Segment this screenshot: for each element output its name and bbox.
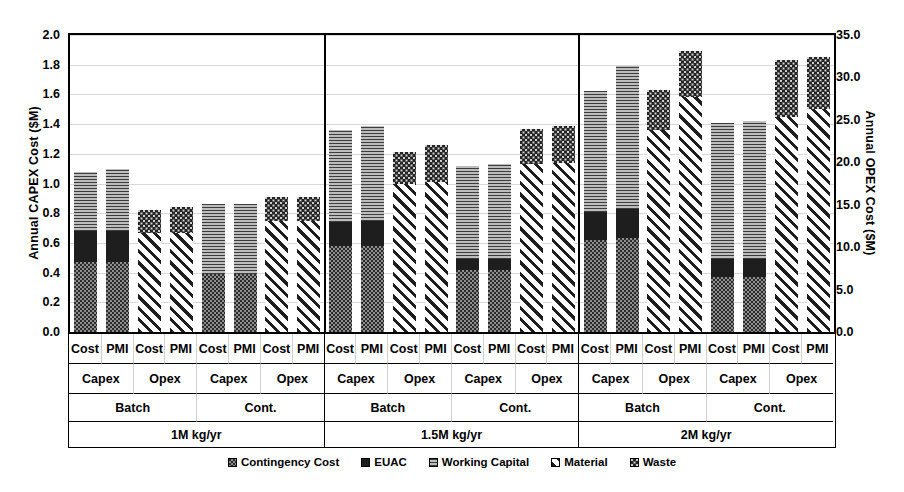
bar-2Mkgyr-Batch-Opex-Cost [647, 90, 670, 332]
bar-segment-contingency-cost [361, 246, 384, 332]
cat-label-measure: Cost [196, 334, 228, 364]
bar-segment-euac [74, 231, 97, 262]
cat-label-throughput: 1M kg/yr [69, 422, 324, 447]
cat-label-measure: Cost [69, 334, 101, 364]
bar-segment-euac [584, 212, 607, 240]
cat-label-measure: PMI [546, 334, 578, 364]
cat-label-panel: Capex [451, 364, 515, 394]
cat-label-mode: Batch [69, 394, 196, 422]
bar-segment-euac [329, 222, 352, 246]
cat-label-measure: Cost [642, 334, 674, 364]
y-axis-right-tick-label: 10.0 [836, 241, 882, 254]
bar-15Mkgyr-Cont-Capex-Cost [456, 166, 479, 332]
bar-segment-material [170, 233, 193, 332]
cat-label-panel: Opex [133, 364, 197, 394]
group-separator [324, 35, 326, 332]
bar-15Mkgyr-Batch-Capex-PMI [361, 126, 384, 332]
cat-label-panel: Opex [515, 364, 579, 394]
bar-segment-euac [616, 209, 639, 239]
bar-segment-material [552, 163, 575, 332]
cat-label-panel: Capex [578, 364, 642, 394]
bar-segment-waste [552, 126, 575, 163]
legend-label: Working Capital [442, 456, 529, 468]
cat-row-throughput: 1M kg/yr1.5M kg/yr2M kg/yr [69, 422, 835, 447]
cat-label-measure: PMI [101, 334, 133, 364]
bar-segment-waste [170, 207, 193, 232]
cat-label-measure: Cost [260, 334, 292, 364]
cat-label-measure: Cost [706, 334, 738, 364]
bar-15Mkgyr-Batch-Capex-Cost [329, 130, 352, 332]
y-axis-left-tick-label: 0.2 [20, 296, 60, 309]
bar-1Mkgyr-Batch-Opex-PMI [170, 207, 193, 332]
bar-segment-working-capital [361, 126, 384, 221]
cat-label-measure: PMI [674, 334, 706, 364]
cat-label-measure: Cost [133, 334, 165, 364]
bar-15Mkgyr-Cont-Opex-PMI [552, 126, 575, 332]
y-axis-right-tick-label: 30.0 [836, 71, 882, 84]
bar-15Mkgyr-Batch-Opex-Cost [393, 152, 416, 332]
category-axis-table: CostPMICostPMICostPMICostPMICostPMICostP… [68, 334, 836, 448]
cat-label-panel: Opex [642, 364, 706, 394]
bar-1Mkgyr-Batch-Capex-Cost [74, 172, 97, 332]
bar-segment-waste [775, 60, 798, 116]
cat-label-panel: Opex [260, 364, 324, 394]
bar-segment-working-capital [584, 91, 607, 211]
legend-item: Waste [630, 456, 676, 468]
cat-row-measure: CostPMICostPMICostPMICostPMICostPMICostP… [69, 334, 835, 364]
bar-2Mkgyr-Cont-Opex-PMI [807, 57, 830, 332]
bar-segment-contingency-cost [456, 270, 479, 332]
y-axis-left-tick-label: 1.0 [20, 178, 60, 191]
cat-label-panel: Opex [769, 364, 833, 394]
bar-segment-material [647, 130, 670, 332]
bar-segment-working-capital [743, 121, 766, 259]
bar-segment-working-capital [616, 66, 639, 209]
cat-label-measure: PMI [228, 334, 260, 364]
y-axis-left-ticks: 0.00.20.40.60.81.01.21.41.61.82.0 [18, 0, 60, 492]
bar-segment-euac [743, 259, 766, 277]
bar-1Mkgyr-Batch-Opex-Cost [138, 210, 161, 332]
legend-label: EUAC [374, 456, 407, 468]
y-axis-right-tick-label: 15.0 [836, 199, 882, 212]
bar-segment-contingency-cost [106, 262, 129, 332]
bar-segment-contingency-cost [488, 270, 511, 332]
bar-2Mkgyr-Batch-Capex-Cost [584, 91, 607, 332]
bar-segment-waste [807, 57, 830, 109]
bar-segment-waste [265, 197, 288, 221]
legend-item: Contingency Cost [228, 456, 339, 468]
y-axis-left-tick-label: 0.0 [20, 326, 60, 339]
y-axis-left-tick-label: 0.6 [20, 237, 60, 250]
bar-1Mkgyr-Cont-Capex-PMI [234, 204, 257, 332]
bar-1Mkgyr-Cont-Opex-Cost [265, 197, 288, 332]
bar-15Mkgyr-Batch-Opex-PMI [425, 145, 448, 332]
chart-legend: Contingency CostEUACWorking CapitalMater… [0, 456, 904, 468]
bar-segment-material [520, 164, 543, 332]
bar-segment-euac [361, 221, 384, 246]
cat-row-mode: BatchCont.BatchCont.BatchCont. [69, 394, 835, 422]
bar-segment-working-capital [711, 123, 734, 260]
y-axis-right-tick-label: 25.0 [836, 114, 882, 127]
bar-segment-waste [647, 90, 670, 130]
cat-label-measure: PMI [355, 334, 387, 364]
bar-segment-material [138, 233, 161, 332]
legend-item: Working Capital [429, 456, 529, 468]
cat-label-mode: Batch [324, 394, 451, 422]
bar-segment-material [393, 184, 416, 333]
bar-2Mkgyr-Cont-Capex-PMI [743, 121, 766, 332]
legend-label: Material [564, 456, 607, 468]
cat-label-measure: PMI [419, 334, 451, 364]
bar-segment-working-capital [488, 164, 511, 259]
bar-segment-waste [297, 197, 320, 221]
y-axis-right-tick-label: 5.0 [836, 284, 882, 297]
cat-label-measure: PMI [737, 334, 769, 364]
legend-swatch-euac-icon [361, 458, 370, 467]
bar-segment-contingency-cost [74, 262, 97, 332]
cat-label-mode: Cont. [706, 394, 833, 422]
legend-item: Material [551, 456, 607, 468]
bar-segment-working-capital [234, 204, 257, 274]
legend-swatch-material-icon [551, 458, 560, 467]
cat-label-panel: Capex [69, 364, 133, 394]
y-axis-left-tick-label: 1.4 [20, 118, 60, 131]
bar-segment-euac [456, 259, 479, 269]
cat-row-panel: CapexOpexCapexOpexCapexOpexCapexOpexCape… [69, 364, 835, 394]
cat-label-measure: PMI [483, 334, 515, 364]
